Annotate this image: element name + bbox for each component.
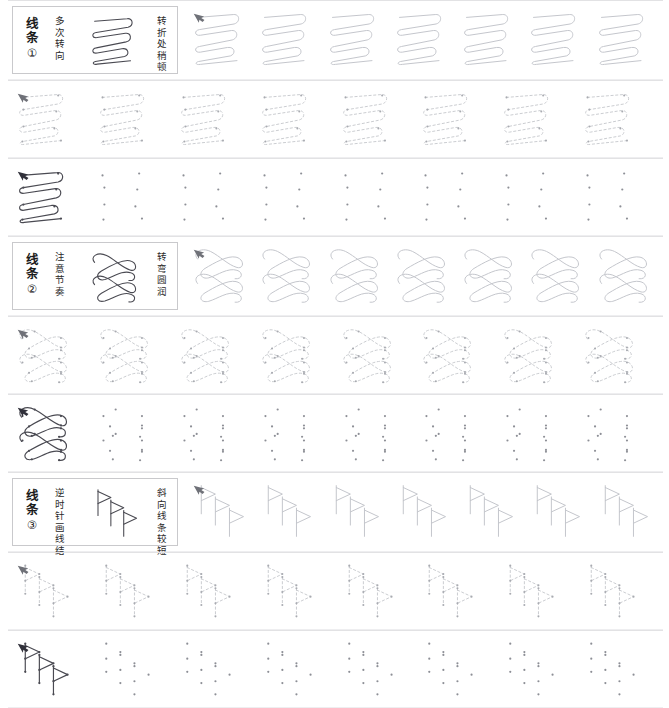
glyph-practice-cell[interactable] <box>176 558 238 624</box>
glyph-practice-cell[interactable] <box>418 164 480 230</box>
glyph-practice-cell[interactable] <box>526 242 588 308</box>
glyph-cell-track <box>0 158 669 236</box>
glyph-practice-cell[interactable] <box>499 322 561 388</box>
glyph-practice-cell[interactable] <box>95 86 157 152</box>
glyph-practice-cell[interactable] <box>580 322 642 388</box>
glyph-practice-cell[interactable] <box>594 242 656 308</box>
glyph-practice-cell[interactable] <box>325 478 387 544</box>
glyph-practice-cell[interactable] <box>338 322 400 388</box>
glyph-cell-track <box>0 552 669 630</box>
stroke-start-arrow <box>194 14 205 23</box>
glyph-practice-cell[interactable] <box>257 86 319 152</box>
glyph-practice-cell[interactable] <box>257 164 319 230</box>
glyph-cell-track <box>0 0 669 80</box>
glyph-practice-cell[interactable] <box>325 6 387 72</box>
glyph-practice-cell[interactable] <box>176 86 238 152</box>
glyph-practice-cell[interactable] <box>499 400 561 466</box>
practice-row <box>0 158 669 236</box>
practice-row: 线条③逆时针画线结斜向线条较短 <box>0 472 669 552</box>
glyph-practice-cell[interactable] <box>257 636 319 702</box>
practice-section-line-1: 线条①多次转向转折处稍顿 <box>0 0 669 236</box>
glyph-practice-cell[interactable] <box>257 242 319 308</box>
glyph-practice-cell[interactable] <box>176 400 238 466</box>
glyph-practice-cell[interactable] <box>499 164 561 230</box>
glyph-cell-track <box>0 80 669 158</box>
glyph-practice-cell[interactable] <box>418 86 480 152</box>
glyph-practice-cell[interactable] <box>190 478 252 544</box>
glyph-practice-cell[interactable] <box>338 636 400 702</box>
stroke-start-arrow <box>18 172 29 181</box>
glyph-practice-cell[interactable] <box>14 86 76 152</box>
stroke-start-arrow <box>18 94 29 103</box>
glyph-practice-cell[interactable] <box>257 478 319 544</box>
glyph-practice-cell[interactable] <box>580 558 642 624</box>
glyph-model-cell[interactable] <box>14 400 76 466</box>
glyph-practice-cell[interactable] <box>95 400 157 466</box>
glyph-practice-cell[interactable] <box>14 558 76 624</box>
glyph-practice-cell[interactable] <box>392 6 454 72</box>
stroke-start-arrow <box>18 644 29 653</box>
glyph-practice-cell[interactable] <box>257 322 319 388</box>
practice-row <box>0 316 669 394</box>
glyph-practice-cell[interactable] <box>459 242 521 308</box>
glyph-practice-cell[interactable] <box>499 86 561 152</box>
glyph-practice-cell[interactable] <box>459 6 521 72</box>
glyph-practice-cell[interactable] <box>176 164 238 230</box>
glyph-practice-cell[interactable] <box>14 322 76 388</box>
stroke-start-arrow <box>18 566 29 575</box>
practice-row <box>0 552 669 630</box>
glyph-practice-cell[interactable] <box>176 322 238 388</box>
glyph-practice-cell[interactable] <box>325 242 387 308</box>
stroke-start-arrow <box>194 486 205 495</box>
glyph-practice-cell[interactable] <box>418 558 480 624</box>
glyph-practice-cell[interactable] <box>95 322 157 388</box>
glyph-practice-cell[interactable] <box>392 242 454 308</box>
glyph-cell-track <box>0 630 669 708</box>
glyph-practice-cell[interactable] <box>580 636 642 702</box>
glyph-practice-cell[interactable] <box>418 322 480 388</box>
glyph-practice-cell[interactable] <box>594 478 656 544</box>
glyph-practice-cell[interactable] <box>176 636 238 702</box>
glyph-practice-cell[interactable] <box>580 86 642 152</box>
glyph-practice-cell[interactable] <box>499 558 561 624</box>
glyph-practice-cell[interactable] <box>257 6 319 72</box>
glyph-model-cell[interactable] <box>14 164 76 230</box>
glyph-practice-cell[interactable] <box>95 558 157 624</box>
glyph-practice-cell[interactable] <box>338 558 400 624</box>
glyph-practice-cell[interactable] <box>257 400 319 466</box>
practice-row <box>0 630 669 708</box>
glyph-cell-track <box>0 236 669 316</box>
practice-row: 线条①多次转向转折处稍顿 <box>0 0 669 80</box>
practice-row: 线条②注意节奏转弯圆润 <box>0 236 669 316</box>
glyph-practice-cell[interactable] <box>338 400 400 466</box>
glyph-practice-cell[interactable] <box>526 478 588 544</box>
glyph-cell-track <box>0 316 669 394</box>
glyph-practice-cell[interactable] <box>459 478 521 544</box>
glyph-practice-cell[interactable] <box>499 636 561 702</box>
practice-section-line-3: 线条③逆时针画线结斜向线条较短 <box>0 472 669 708</box>
glyph-model-cell[interactable] <box>14 636 76 702</box>
glyph-practice-cell[interactable] <box>594 6 656 72</box>
glyph-practice-cell[interactable] <box>257 558 319 624</box>
glyph-practice-cell[interactable] <box>190 6 252 72</box>
practice-row <box>0 80 669 158</box>
glyph-practice-cell[interactable] <box>392 478 454 544</box>
glyph-practice-cell[interactable] <box>95 636 157 702</box>
glyph-cell-track <box>0 394 669 472</box>
glyph-practice-cell[interactable] <box>526 6 588 72</box>
glyph-cell-track <box>0 472 669 552</box>
glyph-practice-cell[interactable] <box>190 242 252 308</box>
glyph-practice-cell[interactable] <box>338 86 400 152</box>
glyph-practice-cell[interactable] <box>418 400 480 466</box>
glyph-practice-cell[interactable] <box>580 164 642 230</box>
glyph-practice-cell[interactable] <box>95 164 157 230</box>
practice-row <box>0 394 669 472</box>
practice-section-line-2: 线条②注意节奏转弯圆润 <box>0 236 669 472</box>
glyph-practice-cell[interactable] <box>418 636 480 702</box>
glyph-practice-cell[interactable] <box>338 164 400 230</box>
glyph-practice-cell[interactable] <box>580 400 642 466</box>
